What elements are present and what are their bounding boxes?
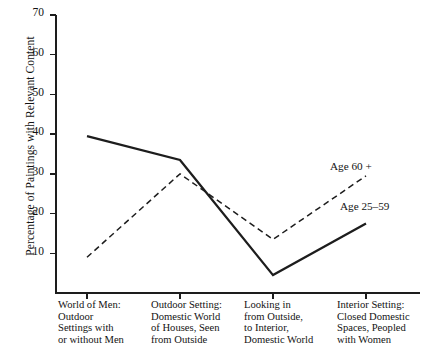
x-category-label-3-line-0: Interior Setting:	[337, 299, 410, 311]
x-category-label-2-line-2: to Interior,	[244, 322, 313, 334]
x-category-label-0-line-0: World of Men:	[58, 299, 124, 311]
x-category-label-3: Interior Setting:Closed DomesticSpaces, …	[337, 299, 410, 345]
x-category-label-1-line-2: of Houses, Seen	[151, 322, 222, 334]
x-category-label-2-line-0: Looking in	[244, 299, 313, 311]
series-line-age-25-59	[87, 136, 366, 275]
y-tick-label-60: 60	[33, 46, 45, 58]
x-category-label-0-line-3: or without Men	[58, 334, 124, 346]
series-label-age-60-plus: Age 60 +	[330, 160, 372, 172]
x-category-label-1-line-1: Domestic World	[151, 311, 222, 323]
y-tick-label-30: 30	[33, 165, 45, 177]
y-tick-label-10: 10	[33, 245, 45, 257]
x-category-label-0-line-1: Outdoor	[58, 311, 124, 323]
x-category-label-3-line-3: with Women	[337, 334, 410, 346]
x-category-label-0: World of Men:OutdoorSettings withor with…	[58, 299, 124, 345]
series-lines	[55, 15, 420, 293]
series-line-age-60-plus	[87, 174, 366, 257]
x-category-label-0-line-2: Settings with	[58, 322, 124, 334]
chart-figure: Percentage of Paintings with Relevant Co…	[0, 0, 425, 348]
plot-area: 10203040506070	[55, 15, 420, 293]
series-label-age-25-59: Age 25–59	[340, 200, 389, 212]
x-category-label-1-line-0: Outdoor Setting:	[151, 299, 222, 311]
x-category-label-2: Looking infrom Outside,to Interior,Domes…	[244, 299, 313, 345]
x-category-label-2-line-1: from Outside,	[244, 311, 313, 323]
x-category-label-1: Outdoor Setting:Domestic Worldof Houses,…	[151, 299, 222, 345]
x-category-label-3-line-1: Closed Domestic	[337, 311, 410, 323]
y-tick-label-40: 40	[33, 125, 45, 137]
y-tick-label-70: 70	[33, 6, 45, 18]
x-category-label-3-line-2: Spaces, Peopled	[337, 322, 410, 334]
y-tick-label-20: 20	[33, 205, 45, 217]
y-tick-label-50: 50	[33, 86, 45, 98]
x-category-label-1-line-3: from Outside	[151, 334, 222, 346]
x-category-label-2-line-3: Domestic World	[244, 334, 313, 346]
